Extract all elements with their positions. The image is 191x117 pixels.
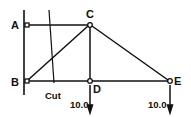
member-ce	[92, 26, 168, 80]
load-e-label: 10.0	[148, 99, 167, 110]
truss-diagram: A C B D E Cut 10.0 10.0	[0, 0, 191, 117]
truss-nodes	[25, 23, 172, 84]
node-a-label: A	[11, 19, 19, 31]
node-d-joint-icon	[88, 79, 93, 84]
node-c-label: C	[86, 8, 94, 20]
node-c-joint-icon	[88, 23, 93, 28]
member-bc	[28, 26, 88, 80]
load-e-arrow-icon	[168, 105, 173, 113]
node-e-joint-icon	[168, 79, 173, 84]
cut-label: Cut	[45, 90, 62, 101]
node-b-pin-icon	[25, 79, 29, 83]
node-a-pin-icon	[25, 23, 29, 27]
node-b-label: B	[11, 76, 19, 88]
node-d-label: D	[93, 83, 101, 95]
node-e-label: E	[174, 75, 181, 87]
load-d-label: 10.0	[70, 99, 89, 110]
truss-members	[28, 25, 168, 81]
cut-line	[49, 10, 54, 83]
